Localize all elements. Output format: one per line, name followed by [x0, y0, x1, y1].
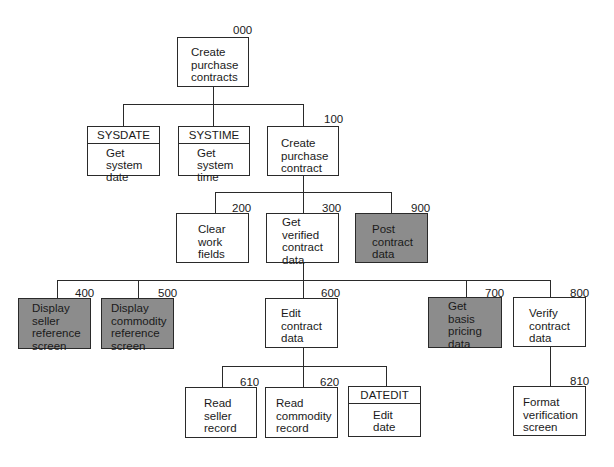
module-label: Get system date	[106, 147, 142, 183]
module-verify-contract-data: Verify contract data	[513, 297, 586, 347]
connector	[138, 280, 139, 298]
connector	[303, 347, 304, 387]
module-get-verified-contract-data: Get verified contract data	[266, 213, 339, 263]
module-datedit: DATEDIT Edit date	[348, 386, 421, 437]
module-display-commodity-reference-screen: Display commodity reference screen	[101, 298, 174, 349]
module-post-contract-data: Post contract data	[355, 213, 428, 263]
module-label: Format verification screen	[523, 396, 578, 434]
module-header: SYSTIME	[179, 127, 249, 144]
connector	[57, 280, 551, 281]
connector	[550, 280, 551, 298]
module-systime: SYSTIME Get system time	[178, 126, 250, 176]
module-display-seller-reference-screen: Display seller reference screen	[18, 298, 91, 349]
connector	[303, 104, 304, 126]
module-get-basis-pricing-data: Get basis pricing data	[428, 297, 502, 348]
connector	[303, 175, 304, 213]
module-label: Edit date	[373, 409, 395, 433]
module-number: 000	[233, 24, 252, 36]
module-label: Read seller record	[204, 397, 237, 435]
module-sysdate: SYSDATE Get system date	[87, 126, 160, 176]
module-label: Post contract data	[372, 223, 413, 261]
connector	[466, 280, 467, 298]
module-label: Get verified contract data	[282, 216, 323, 266]
connector	[123, 104, 124, 126]
connector	[550, 347, 551, 386]
module-label: Get basis pricing data	[448, 300, 482, 350]
module-label: Display commodity reference screen	[111, 302, 167, 352]
module-create-purchase-contract: Create purchase contract	[267, 126, 339, 176]
module-number: 100	[324, 113, 343, 125]
connector	[57, 280, 58, 298]
connector	[215, 192, 392, 193]
module-label: Edit contract data	[281, 307, 322, 345]
module-label: Create purchase contract	[281, 137, 328, 175]
connector	[213, 86, 214, 104]
module-label: Create purchase contracts	[191, 46, 238, 84]
module-clear-work-fields: Clear work fields	[176, 213, 249, 263]
connector	[222, 366, 223, 387]
module-label: Clear work fields	[198, 223, 225, 261]
module-label: Display seller reference screen	[32, 302, 81, 352]
connector	[386, 366, 387, 387]
module-label: Read commodity record	[276, 397, 332, 435]
module-create-purchase-contracts: Create purchase contracts	[177, 37, 249, 87]
module-header: SYSDATE	[88, 127, 159, 144]
module-read-seller-record: Read seller record	[185, 387, 257, 438]
module-edit-contract-data: Edit contract data	[265, 298, 338, 348]
connector	[213, 104, 214, 126]
connector	[222, 366, 387, 367]
module-read-commodity-record: Read commodity record	[265, 387, 338, 438]
module-label: Get system time	[197, 147, 233, 183]
module-format-verification-screen: Format verification screen	[513, 386, 586, 436]
connector	[215, 192, 216, 213]
module-header: DATEDIT	[349, 387, 420, 404]
module-label: Verify contract data	[529, 307, 570, 345]
connector	[391, 192, 392, 213]
